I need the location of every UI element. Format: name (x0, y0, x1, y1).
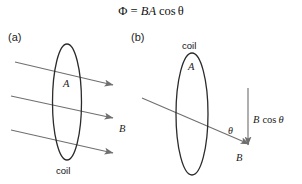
oblique-field-line (142, 98, 249, 144)
panel-a-coil-label: coil (56, 166, 70, 176)
panel-a-artwork (11, 44, 113, 160)
panel-a-area-label: A (63, 79, 69, 90)
panel-b-angle-label: θ (228, 126, 233, 136)
panel-b-area-label: A (188, 62, 194, 73)
field-line-3 (11, 130, 113, 153)
panel-b-field-label: B (236, 153, 242, 164)
component-label-cos: cos (262, 114, 276, 125)
panel-a-field-label: B (119, 124, 125, 135)
panel-b-label: (b) (131, 32, 144, 43)
panel-a-label: (a) (8, 32, 21, 43)
component-label-theta: θ (278, 114, 283, 125)
diagram-artwork (0, 0, 302, 184)
panel-b-artwork (142, 53, 249, 175)
component-label-b: B (253, 114, 259, 125)
panel-b-component-label: Bcosθ (253, 115, 284, 126)
magnetic-flux-figure: Φ = BAcosθ (a) A B (0, 0, 302, 184)
field-line-2 (11, 96, 113, 118)
panel-b-coil-label: coil (182, 41, 196, 51)
